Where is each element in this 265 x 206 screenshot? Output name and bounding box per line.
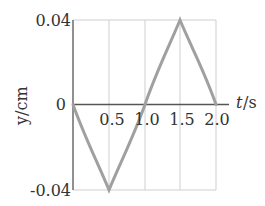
x-tick-label-1-0: 1.0: [134, 110, 159, 129]
chart: 0.04 0 -0.04 0.5 1.0 1.5 2.0 t /s y/cm: [0, 0, 265, 206]
x-axis-title-t: t: [236, 93, 243, 112]
x-axis-title-unit: /s: [243, 93, 257, 112]
y-tick-label-bottom: -0.04: [30, 181, 71, 200]
x-tick-label-0-5: 0.5: [99, 110, 124, 129]
x-tick-label-1-5: 1.5: [169, 110, 194, 129]
y-axis-title: y/cm: [12, 86, 31, 126]
x-tick-label-2-0: 2.0: [204, 110, 229, 129]
y-tick-label-zero: 0: [56, 95, 66, 114]
y-tick-label-top: 0.04: [35, 11, 71, 30]
